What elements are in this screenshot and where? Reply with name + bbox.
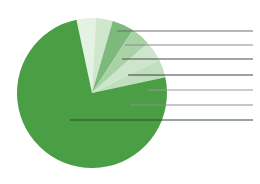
pie-slices-group — [17, 18, 167, 168]
pie-chart-canvas — [0, 0, 260, 184]
pie-chart-figure — [0, 0, 260, 184]
